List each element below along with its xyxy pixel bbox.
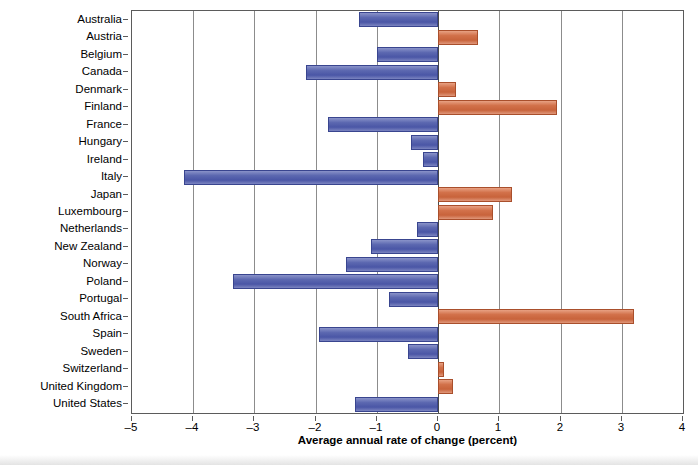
bar-canada bbox=[306, 65, 438, 80]
y-axis-tick bbox=[123, 351, 128, 352]
y-axis-tick bbox=[123, 246, 128, 247]
y-axis-tick-label: France bbox=[86, 115, 122, 133]
bar-luxembourg bbox=[438, 205, 493, 220]
y-axis-tick bbox=[123, 141, 128, 142]
page-edge-shadow bbox=[0, 455, 698, 465]
bar-new-zealand bbox=[371, 239, 438, 254]
y-axis-tick-label: Belgium bbox=[80, 45, 122, 63]
y-axis-tick-label: Spain bbox=[93, 324, 122, 342]
y-axis-tick bbox=[123, 36, 128, 37]
gridline bbox=[193, 11, 194, 413]
y-axis-tick-label: South Africa bbox=[60, 307, 122, 325]
y-axis-tick-label: Finland bbox=[84, 97, 122, 115]
bar-south-africa bbox=[438, 309, 634, 324]
y-axis-tick bbox=[123, 228, 128, 229]
gridline bbox=[561, 11, 562, 413]
x-axis-tick-label: 3 bbox=[618, 421, 624, 433]
y-axis-tick-label: Denmark bbox=[75, 80, 122, 98]
y-axis-tick-label: Australia bbox=[77, 10, 122, 28]
bar-netherlands bbox=[417, 222, 438, 237]
x-axis-tick-label: 1 bbox=[495, 421, 501, 433]
bar-ireland bbox=[423, 152, 438, 167]
y-axis-tick bbox=[123, 263, 128, 264]
y-axis-tick-label: United States bbox=[53, 394, 122, 412]
x-axis-tick-label: –5 bbox=[125, 421, 138, 433]
y-axis-tick bbox=[123, 211, 128, 212]
y-axis-tick bbox=[123, 333, 128, 334]
y-axis-tick bbox=[123, 159, 128, 160]
y-axis-tick bbox=[123, 106, 128, 107]
y-axis-tick bbox=[123, 176, 128, 177]
y-axis-tick-label: Hungary bbox=[79, 132, 122, 150]
y-axis-tick-label: Switzerland bbox=[63, 359, 122, 377]
y-axis-tick bbox=[123, 71, 128, 72]
y-axis-tick bbox=[123, 403, 128, 404]
x-axis-labels: –5–4–3–2–101234 bbox=[131, 416, 684, 434]
x-axis-tick-label: 2 bbox=[557, 421, 563, 433]
x-axis-title: Average annual rate of change (percent) bbox=[131, 434, 684, 446]
gridline bbox=[499, 11, 500, 413]
y-axis-tick bbox=[123, 368, 128, 369]
chart-container: AustraliaAustriaBelgiumCanadaDenmarkFinl… bbox=[0, 0, 698, 465]
y-axis-tick-label: Portugal bbox=[79, 289, 122, 307]
y-axis-tick bbox=[123, 54, 128, 55]
bar-united-states bbox=[355, 397, 438, 412]
y-axis-tick bbox=[123, 386, 128, 387]
x-axis-tick-label: –4 bbox=[186, 421, 199, 433]
y-axis-tick bbox=[123, 281, 128, 282]
bar-australia bbox=[359, 12, 439, 27]
y-axis-tick bbox=[123, 19, 128, 20]
x-axis-tick-label: –1 bbox=[370, 421, 383, 433]
y-axis-tick bbox=[123, 316, 128, 317]
bar-denmark bbox=[438, 82, 456, 97]
x-axis-tick-label: –2 bbox=[309, 421, 322, 433]
y-axis-tick-label: Canada bbox=[82, 62, 122, 80]
bar-hungary bbox=[411, 135, 439, 150]
y-axis-tick bbox=[123, 89, 128, 90]
y-axis-tick bbox=[123, 124, 128, 125]
plot-area bbox=[131, 10, 684, 414]
bar-sweden bbox=[408, 344, 439, 359]
bar-japan bbox=[438, 187, 511, 202]
bar-switzerland bbox=[438, 362, 444, 377]
y-axis-tick-label: Ireland bbox=[87, 150, 122, 168]
bar-norway bbox=[346, 257, 438, 272]
y-axis-tick-label: Poland bbox=[86, 272, 122, 290]
y-axis-tick-label: Norway bbox=[83, 254, 122, 272]
bar-italy bbox=[184, 170, 438, 185]
gridline bbox=[254, 11, 255, 413]
y-axis-tick bbox=[123, 194, 128, 195]
y-axis-tick-label: Austria bbox=[86, 27, 122, 45]
x-axis-tick-label: 0 bbox=[434, 421, 440, 433]
bar-poland bbox=[233, 274, 438, 289]
bar-finland bbox=[438, 100, 557, 115]
y-axis-tick-label: United Kingdom bbox=[40, 377, 122, 395]
y-axis-labels: AustraliaAustriaBelgiumCanadaDenmarkFinl… bbox=[0, 10, 128, 414]
bar-spain bbox=[319, 327, 438, 342]
y-axis-tick-label: Sweden bbox=[80, 342, 122, 360]
y-axis-tick bbox=[123, 298, 128, 299]
y-axis-tick-label: Luxembourg bbox=[58, 202, 122, 220]
gridline bbox=[622, 11, 623, 413]
y-axis-tick-label: Japan bbox=[91, 185, 122, 203]
bar-austria bbox=[438, 30, 478, 45]
bar-belgium bbox=[377, 47, 438, 62]
x-axis-tick-label: 4 bbox=[679, 421, 685, 433]
bar-france bbox=[328, 117, 438, 132]
bar-united-kingdom bbox=[438, 379, 453, 394]
x-axis-tick-label: –3 bbox=[247, 421, 260, 433]
y-axis-tick-label: Netherlands bbox=[60, 219, 122, 237]
y-axis-tick-label: Italy bbox=[101, 167, 122, 185]
bar-portugal bbox=[389, 292, 438, 307]
y-axis-tick-label: New Zealand bbox=[54, 237, 122, 255]
